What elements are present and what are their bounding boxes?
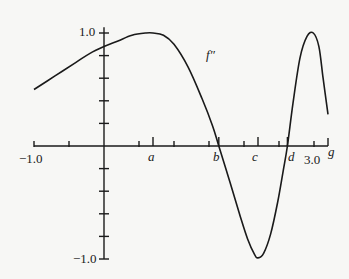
y-tick-label-bottom: −1.0 [73, 252, 97, 265]
axes [34, 27, 328, 259]
x-tick-label-left: −1.0 [19, 152, 43, 165]
point-label-a: a [148, 150, 155, 163]
chart: 1.0 −1.0 −1.0 3.0 g f″ a b c d [0, 0, 349, 279]
curve-label: f″ [206, 48, 215, 61]
x-tick-label-right: 3.0 [304, 153, 320, 166]
point-label-b: b [213, 150, 220, 163]
y-tick-label-top: 1.0 [79, 25, 95, 38]
point-label-d: d [288, 150, 295, 163]
point-label-c: c [252, 150, 258, 163]
plot-area [0, 0, 349, 279]
curve-f-double-prime [34, 32, 328, 258]
x-axis-label: g [328, 145, 335, 158]
